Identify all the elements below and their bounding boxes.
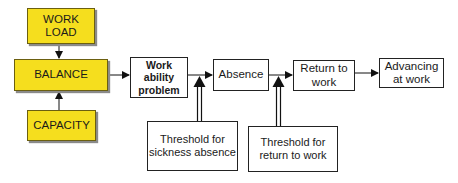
node-work-load: WORK LOAD	[27, 8, 95, 44]
node-capacity-label: CAPACITY	[33, 119, 90, 132]
node-threshold-sickness-line2: sickness absence	[149, 146, 236, 159]
node-capacity: CAPACITY	[27, 110, 96, 141]
node-advancing-line2: at work	[393, 73, 430, 86]
node-threshold-return-to-work: Threshold for return to work	[248, 126, 338, 172]
double-arrow-threshold-return	[273, 76, 285, 126]
node-balance: BALANCE	[14, 59, 108, 91]
node-advancing-at-work: Advancing at work	[379, 58, 444, 88]
node-work-ability-line2: problem	[138, 84, 179, 96]
node-return-line1: Return to	[300, 62, 347, 75]
node-work-ability-problem: Work ability problem	[130, 57, 188, 98]
node-work-ability-line1: Work ability	[131, 59, 187, 83]
node-threshold-return-line2: return to work	[259, 149, 326, 162]
node-threshold-sickness-absence: Threshold for sickness absence	[147, 121, 238, 171]
node-absence-label: Absence	[219, 68, 264, 81]
node-work-load-line1: WORK	[43, 13, 79, 26]
node-absence: Absence	[213, 59, 269, 91]
node-return-line2: work	[312, 76, 336, 89]
node-work-load-line2: LOAD	[45, 26, 76, 39]
double-arrow-threshold-sickness	[194, 76, 206, 121]
node-threshold-sickness-line1: Threshold for	[160, 133, 225, 146]
node-return-to-work: Return to work	[293, 60, 355, 91]
node-advancing-line1: Advancing	[385, 60, 439, 73]
node-balance-label: BALANCE	[34, 68, 88, 81]
node-threshold-return-line1: Threshold for	[261, 136, 326, 149]
